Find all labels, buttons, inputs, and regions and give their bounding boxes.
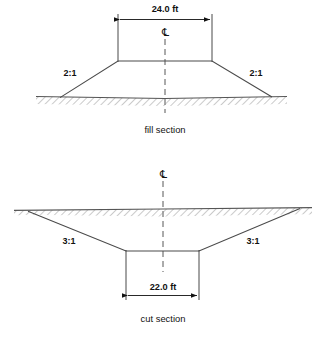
cut-centerline-symbol: ℄ bbox=[159, 168, 167, 180]
cut-left-slope-label: 3:1 bbox=[62, 236, 75, 246]
fill-top-width-label: 24.0 ft bbox=[152, 4, 179, 14]
fill-centerline-symbol: ℄ bbox=[161, 26, 169, 38]
cut-right-slope-label: 3:1 bbox=[246, 236, 259, 246]
fill-left-slope-label: 2:1 bbox=[63, 68, 76, 78]
cut-section-caption: cut section bbox=[141, 313, 186, 324]
cut-section-group: ℄ 3:1 3:1 22.0 ft cut section bbox=[14, 168, 312, 324]
cut-bottom-width-label: 22.0 ft bbox=[150, 282, 177, 292]
fill-section-group: 24.0 ft ℄ 2:1 2:1 fill section bbox=[36, 4, 287, 135]
fill-section-caption: fill section bbox=[144, 124, 185, 135]
fill-right-slope-label: 2:1 bbox=[249, 68, 262, 78]
fill-embankment-outline bbox=[60, 61, 272, 98]
cross-section-diagram: 24.0 ft ℄ 2:1 2:1 fill section ℄ bbox=[0, 0, 325, 339]
diagram-svg: 24.0 ft ℄ 2:1 2:1 fill section ℄ bbox=[0, 0, 325, 339]
